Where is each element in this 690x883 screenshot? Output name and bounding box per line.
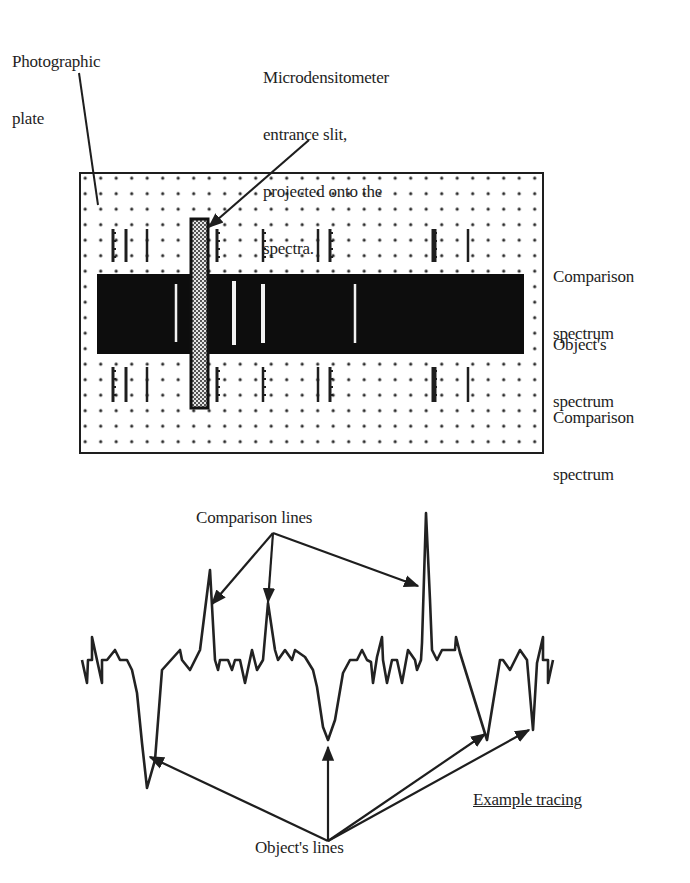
label-line: plate [12, 109, 100, 128]
label-line: Comparison [553, 408, 634, 427]
label-line: Photographic [12, 52, 100, 71]
label-line: spectrum [553, 465, 634, 484]
annotation-arrow [273, 533, 418, 586]
label-line: spectra. [263, 239, 389, 258]
object-spectrum-band [97, 274, 524, 354]
object-lines-arrows [150, 730, 529, 841]
label-microdensitometer-slit: Microdensitometer entrance slit, project… [263, 30, 389, 277]
label-object-lines: Object's lines [255, 838, 344, 857]
comparison-lines-arrows [212, 533, 418, 604]
microdensitometer-slit [191, 219, 208, 408]
label-photographic-plate: Photographic plate [12, 14, 100, 147]
label-line: Object's [553, 335, 614, 354]
annotation-arrow [328, 734, 485, 841]
annotation-arrow [150, 757, 328, 841]
label-comparison-spectrum-bottom: Comparison spectrum [553, 370, 634, 503]
label-line: Comparison [553, 267, 634, 286]
label-line: Microdensitometer [263, 68, 389, 87]
label-line: entrance slit, [263, 125, 389, 144]
annotation-arrow [212, 533, 273, 604]
annotation-arrow [268, 533, 273, 602]
annotation-arrow [328, 730, 529, 841]
label-example-tracing: Example tracing [473, 790, 582, 809]
label-line: projected onto the [263, 182, 389, 201]
densitometer-tracing-line [82, 513, 553, 788]
label-comparison-lines: Comparison lines [196, 508, 312, 527]
